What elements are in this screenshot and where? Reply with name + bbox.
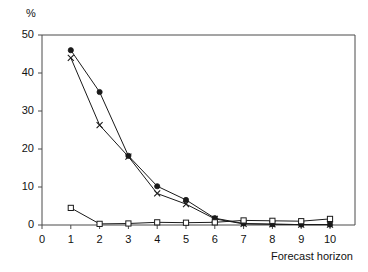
x-tick-label: 6 (200, 233, 230, 245)
x-axis-title: Forecast horizon (271, 250, 353, 262)
y-tick-label: 40 (4, 66, 34, 78)
series-filled-circle-series (68, 48, 332, 228)
x-tick-label: 7 (229, 233, 259, 245)
y-tick-label: 20 (4, 142, 34, 154)
x-tick-label: 2 (85, 233, 115, 245)
series-layer (68, 48, 333, 228)
plot-area (0, 0, 368, 272)
y-tick-label: 30 (4, 104, 34, 116)
x-tick-label: 1 (56, 233, 86, 245)
y-tick-label: 0 (4, 218, 34, 230)
x-tick-label: 5 (171, 233, 201, 245)
x-tick-label: 10 (315, 233, 345, 245)
x-tick-label: 8 (257, 233, 287, 245)
x-tick-label: 0 (27, 233, 57, 245)
y-tick-label: 10 (4, 180, 34, 192)
x-tick-label: 3 (113, 233, 143, 245)
y-axis-unit-label: % (26, 7, 36, 19)
series-cross-series (68, 55, 333, 228)
x-tick-label: 4 (142, 233, 172, 245)
chart-figure: % 01020304050 012345678910 Forecast hori… (0, 0, 368, 272)
y-tick-label: 50 (4, 28, 34, 40)
axis-lines (42, 35, 355, 225)
x-tick-label: 9 (286, 233, 316, 245)
